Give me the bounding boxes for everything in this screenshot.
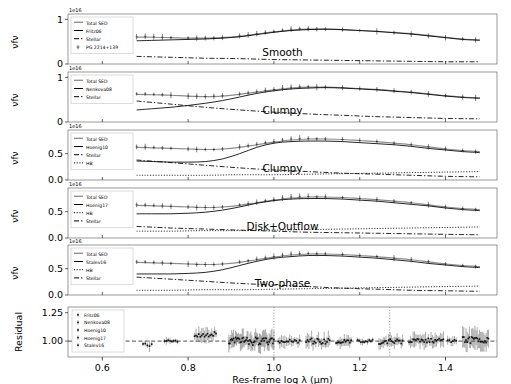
residual-point: [247, 340, 249, 342]
legend-label: Fritz06: [86, 29, 102, 34]
residual-point: [166, 340, 168, 342]
residual-point: [315, 342, 317, 344]
residual-point: [307, 339, 309, 341]
residual-point: [363, 341, 365, 343]
residual-point: [284, 341, 286, 343]
x-axis-label: Res-frame log λ (μm): [232, 374, 332, 384]
residual-point: [329, 339, 331, 341]
residual-point: [360, 341, 362, 343]
residual-point: [402, 340, 404, 342]
residual-point: [426, 342, 428, 344]
x-tick-label: 1.4: [438, 362, 453, 373]
y-tick-label: 1: [57, 14, 63, 25]
residual-point: [395, 340, 397, 342]
y-axis-label: νfν: [10, 209, 20, 222]
panel-title: Smooth: [262, 46, 303, 58]
residual-point: [433, 342, 435, 344]
residual-point: [477, 340, 479, 342]
residual-point: [368, 339, 370, 341]
residual-point: [470, 342, 472, 344]
exponent-label: 1e16: [69, 123, 82, 129]
exponent-label: 1e16: [69, 181, 82, 187]
residual-point: [215, 333, 217, 335]
legend-sample-marker: [77, 344, 79, 346]
panel-two-phase: 1e160.00.5νfνTwo-phaseTotal SEDStalev16H…: [10, 238, 497, 300]
legend-sample-marker: [77, 329, 79, 331]
residual-point: [299, 339, 301, 341]
legend-label: Stalev16: [86, 260, 106, 265]
residual-point: [164, 340, 166, 342]
residual-point: [248, 343, 250, 345]
residual-point: [319, 341, 321, 343]
legend-label: Total SED: [85, 79, 108, 84]
residual-point: [463, 336, 465, 338]
residual-point: [257, 337, 259, 339]
x-tick-label: 1.2: [352, 362, 367, 373]
residual-point: [214, 331, 216, 333]
y-tick-label: 0.0: [48, 289, 63, 300]
panel-clumpy: 1e160.00.5νfνClumpyTotal SEDHoenig10Stel…: [10, 123, 497, 185]
residual-point: [147, 345, 149, 347]
residual-point: [483, 342, 485, 344]
legend-label: PG 2214+139: [86, 45, 118, 50]
residual-point: [252, 344, 254, 346]
y-tick-label: 0.0: [48, 174, 63, 185]
residual-point: [292, 341, 294, 343]
residual-point: [350, 339, 352, 341]
residual-point: [205, 334, 207, 336]
legend-label: Total SED: [85, 21, 108, 26]
panel-title: Disk+Outflow: [246, 220, 318, 232]
legend-label: Hoenig17: [86, 203, 108, 208]
residual-point: [198, 333, 200, 335]
residual-point: [234, 342, 236, 344]
residual-point: [367, 341, 369, 343]
legend-label: Hoenig10: [86, 145, 108, 150]
residual-point: [267, 344, 269, 346]
y-axis-label: νfν: [10, 93, 20, 106]
residual-point: [277, 341, 279, 343]
residual-point: [286, 341, 288, 343]
residual-point: [271, 338, 273, 340]
residual-point: [343, 339, 345, 341]
x-tick-label: 0.6: [95, 362, 110, 373]
legend-sample-marker: [77, 337, 79, 339]
legend-label: Total SED: [85, 195, 108, 200]
residual-point: [239, 338, 241, 340]
residual-point: [289, 339, 291, 341]
residual-point: [387, 342, 389, 344]
residual-point: [465, 339, 467, 341]
residual-point: [484, 340, 486, 342]
residual-point: [197, 336, 199, 338]
y-tick-label: 0.5: [48, 148, 63, 159]
residual-point: [455, 340, 457, 342]
y-tick-label: 0.5: [48, 206, 63, 217]
residual-point: [240, 341, 242, 343]
residual-point: [212, 335, 214, 337]
residual-point: [261, 340, 263, 342]
exponent-label: 1e16: [69, 238, 82, 244]
residual-point: [263, 337, 265, 339]
residual-point: [427, 338, 429, 340]
residual-point: [326, 341, 328, 343]
legend-label: Stellar: [86, 37, 101, 42]
residual-point: [202, 333, 204, 335]
residual-point: [177, 341, 179, 343]
y-tick-label: 1: [57, 72, 63, 83]
residual-point: [362, 341, 364, 343]
residual-point: [291, 341, 293, 343]
residual-point: [167, 339, 169, 341]
legend-label: HB: [86, 211, 93, 216]
y-tick-label: 1.25: [42, 307, 63, 318]
legend-sample-marker: [77, 314, 79, 316]
residual-point: [297, 342, 299, 344]
residual-point: [454, 339, 456, 341]
residual-point: [393, 342, 395, 344]
residual-point: [142, 343, 144, 345]
residual-point: [294, 339, 296, 341]
residual-point: [370, 341, 372, 343]
residual-point: [175, 340, 177, 342]
y-tick-label: 0.5: [48, 263, 63, 274]
legend-label: Stellar: [86, 95, 101, 100]
residual-point: [447, 339, 449, 341]
sed-fitting-figure: 1e1601νfνSmoothTotal SEDFritz06StellarPG…: [0, 0, 511, 384]
